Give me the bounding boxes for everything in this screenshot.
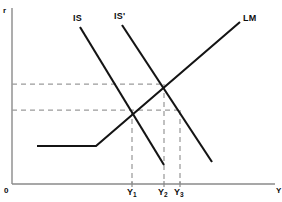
is-prime-curve-label: IS'	[114, 12, 125, 21]
tick-label-y1-sub: 1	[133, 191, 137, 198]
tick-label-y3-sub: 3	[180, 191, 184, 198]
lm-curve-label: LM	[243, 14, 256, 23]
is-lm-figure: r Y 0 IS IS' LM Y1 Y2 Y3	[0, 0, 282, 202]
x-axis-label: Y	[276, 187, 281, 195]
is-prime-curve	[122, 25, 212, 162]
tick-label-y2-sub: 2	[164, 191, 168, 198]
y-axis-label: r	[3, 7, 6, 15]
is-lm-plot-area	[0, 0, 282, 202]
tick-label-y3: Y3	[174, 188, 184, 197]
tick-label-y1: Y1	[127, 188, 137, 197]
is-curve-label: IS	[73, 14, 82, 23]
origin-label: 0	[4, 187, 8, 195]
is-curve	[80, 27, 164, 165]
tick-label-y2: Y2	[158, 188, 168, 197]
